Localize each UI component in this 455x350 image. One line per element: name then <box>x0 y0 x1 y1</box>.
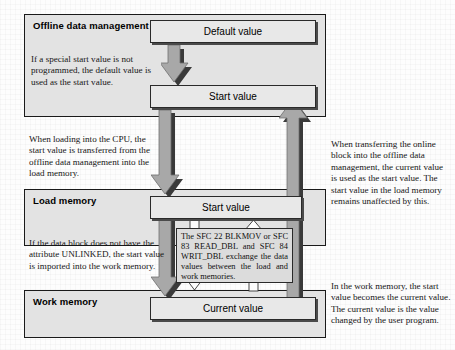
panel-title-load: Load memory <box>33 195 96 206</box>
diagram-page: Offline data management Load memory Work… <box>0 0 455 350</box>
value-box-work-current-value: Current value <box>150 297 316 320</box>
value-box-label-offline-start: Start value <box>209 91 257 102</box>
value-box-label-default: Default value <box>204 26 262 37</box>
arrow-default-to-start-value <box>161 45 193 86</box>
value-box-load-start-value: Start value <box>150 196 302 219</box>
note-default-to-start: If a special start value is not programm… <box>31 54 155 88</box>
note-loading-into-cpu: When loading into the CPU, the start val… <box>29 134 161 180</box>
note-work-memory-current-value: In the work memory, the start value beco… <box>331 281 453 327</box>
value-box-default-value: Default value <box>150 20 316 43</box>
value-box-label-current: Current value <box>203 303 263 314</box>
value-box-offline-start-value: Start value <box>150 85 316 108</box>
panel-title-work: Work memory <box>33 296 97 307</box>
note-transferring-online-block: When transferring the online block into … <box>331 139 451 207</box>
sfc-callout-box: The SFC 22 BLKMOV or SFC 83 READ_DBL and… <box>176 228 293 283</box>
note-unlinked-attribute: If the data block does not have the attr… <box>29 238 169 272</box>
panel-title-offline: Offline data management <box>33 20 149 31</box>
value-box-label-load-start: Start value <box>202 202 250 213</box>
